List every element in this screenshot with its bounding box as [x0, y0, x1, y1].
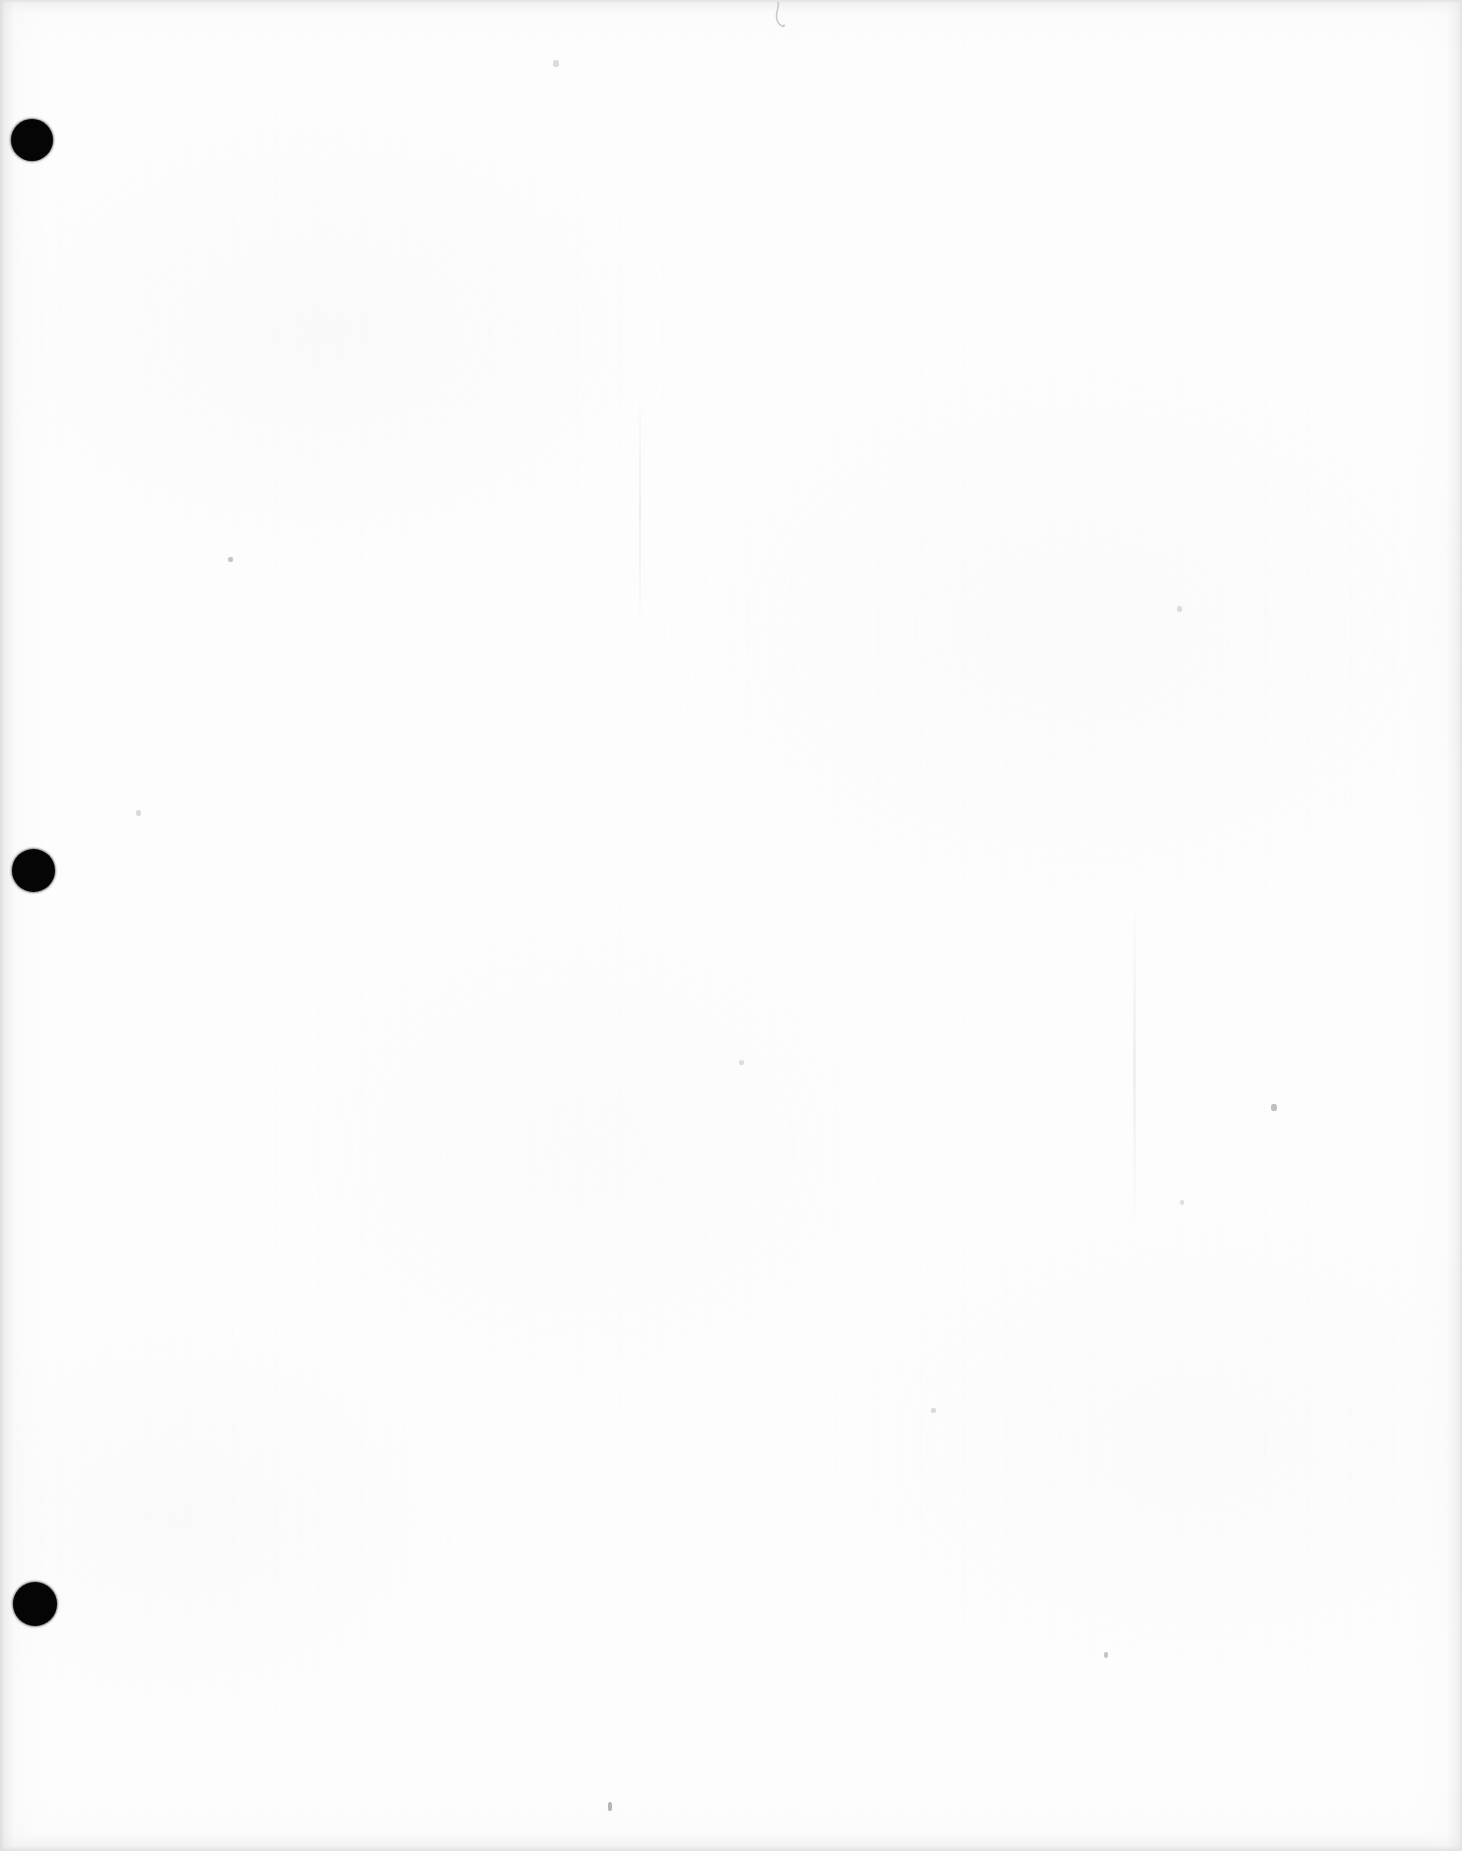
binder-punch-hole-middle — [12, 849, 55, 892]
binder-punch-hole-bottom — [13, 1582, 57, 1626]
binder-punch-hole-top — [11, 119, 53, 161]
scanned-page: Scanned blank page with three binder pun… — [0, 0, 1462, 1851]
paper-background — [0, 0, 1462, 1851]
